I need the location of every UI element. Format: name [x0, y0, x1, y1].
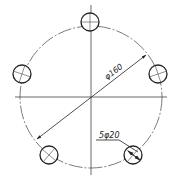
hole-circle-drawing: φ160 5φ20 [0, 0, 175, 190]
hole-left [13, 65, 31, 83]
hole-lower-left [40, 146, 58, 164]
hole-right [149, 65, 167, 83]
hole-top [81, 13, 99, 31]
holes-label: 5φ20 [99, 131, 120, 140]
pitch-diameter-label: φ160 [103, 62, 125, 82]
